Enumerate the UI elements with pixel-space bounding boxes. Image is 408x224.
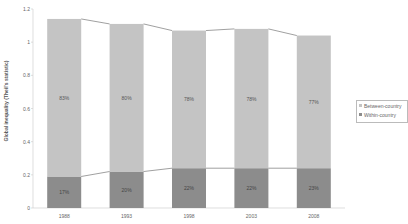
svg-text:2008: 2008 — [308, 213, 319, 219]
plot-area: 83%17%198880%20%199378%22%199878%22%2003… — [0, 0, 408, 224]
svg-text:1988: 1988 — [59, 213, 70, 219]
svg-text:20%: 20% — [122, 187, 133, 193]
svg-text:77%: 77% — [309, 99, 320, 105]
svg-text:22%: 22% — [184, 185, 195, 191]
svg-text:17%: 17% — [59, 189, 70, 195]
svg-text:1993: 1993 — [121, 213, 132, 219]
svg-text:78%: 78% — [246, 96, 257, 102]
svg-text:1998: 1998 — [183, 213, 194, 219]
svg-text:80%: 80% — [122, 95, 133, 101]
svg-text:78%: 78% — [184, 96, 195, 102]
between-swatch-icon — [359, 104, 362, 107]
within-swatch-icon — [359, 113, 362, 116]
svg-text:23%: 23% — [309, 185, 320, 191]
legend-label: Between-country — [364, 103, 402, 109]
svg-text:2003: 2003 — [246, 213, 257, 219]
legend-item-within: Within-country — [357, 110, 407, 119]
legend-item-between: Between-country — [357, 101, 407, 110]
chart: Global inequality (Theil's statistic) 00… — [0, 0, 408, 224]
legend-label: Within-country — [364, 112, 396, 118]
legend: Between-country Within-country — [356, 100, 408, 123]
svg-text:22%: 22% — [246, 185, 257, 191]
svg-text:83%: 83% — [59, 95, 70, 101]
